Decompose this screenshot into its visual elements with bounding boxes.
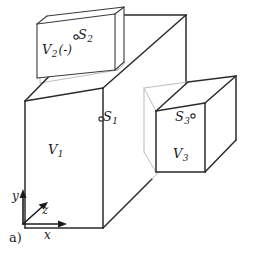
surface-label-s1-letter: S — [103, 109, 112, 124]
z-axis-label: z — [42, 204, 48, 216]
volume-label-v1-subscript: 1 — [57, 149, 63, 159]
volume-label-v1-letter: V — [48, 142, 57, 157]
surface-label-s3: S3 — [175, 110, 190, 126]
slab-front-face — [25, 88, 103, 228]
volume-label-v3-letter: V — [173, 146, 182, 161]
surface-label-s2: S2 — [78, 28, 93, 44]
surface-label-s2-letter: S — [78, 27, 87, 42]
surface-label-s1-subscript: 1 — [112, 116, 118, 126]
volume-label-v2-letter: V — [42, 42, 51, 57]
surface-label-s3-letter: S — [175, 109, 184, 124]
figure-part-label: a) — [9, 231, 22, 244]
volume-label-v2: V2(-) — [42, 43, 72, 59]
volume-label-v3-subscript: 3 — [182, 153, 188, 163]
topbox-right-face — [115, 7, 124, 70]
volume-label-v2-subscript: 2 — [51, 49, 57, 59]
y-axis-label: y — [12, 190, 19, 202]
volume-label-v2-suffix: (-) — [58, 43, 72, 57]
volume-label-v1: V1 — [48, 143, 64, 159]
x-axis-label: x — [44, 229, 51, 241]
surface-label-s1: S1 — [103, 110, 118, 126]
rightbox-hidden-bottom-edge — [144, 152, 156, 172]
volume-label-v3: V3 — [173, 147, 189, 163]
surface-label-s2-subscript: 2 — [87, 34, 93, 44]
diagram-canvas — [0, 0, 257, 255]
surface-point-marker-s3 — [191, 114, 195, 118]
surface-label-s3-subscript: 3 — [184, 116, 190, 126]
technical-diagram-figure: V2(-) S2 S1 V1 S3 V3 y z x a) — [0, 0, 257, 255]
